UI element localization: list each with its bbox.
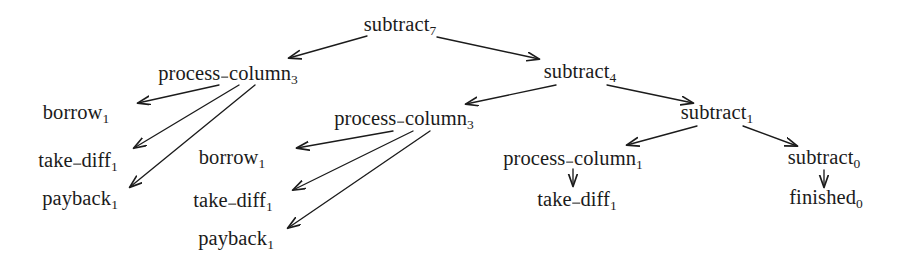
node-label-text: column <box>574 147 636 169</box>
tree-edge-n2-to-n6 <box>466 85 556 104</box>
underscore-glyph <box>220 60 229 81</box>
node-subscript: 1 <box>746 111 753 126</box>
node-label-text: column <box>229 62 291 84</box>
underscore-glyph <box>228 187 237 208</box>
tree-node-finished-0: finished0 <box>789 187 863 210</box>
node-subscript: 3 <box>291 72 298 87</box>
node-subscript: 4 <box>609 70 616 85</box>
tree-edge-n7-to-n11 <box>627 126 697 145</box>
tree-edge-n1-to-n3 <box>138 85 219 103</box>
tree-edge-n7-to-n13 <box>743 126 797 146</box>
tree-node-subtract-4: subtract4 <box>544 61 616 84</box>
node-label-text: process <box>503 147 565 169</box>
node-subscript: 7 <box>429 23 436 38</box>
node-label-text: take <box>537 188 572 210</box>
underscore-glyph <box>565 145 574 166</box>
node-label-text: borrow <box>199 146 259 168</box>
node-label-text: subtract <box>788 146 854 168</box>
node-label-text: diff <box>81 149 111 171</box>
node-subscript: 1 <box>111 159 118 174</box>
tree-node-payback-1: payback1 <box>42 188 118 211</box>
call-tree-figure: subtract7processcolumn3subtract4borrow1t… <box>0 0 907 272</box>
tree-node-process-column-1: processcolumn1 <box>503 145 643 172</box>
underscore-glyph <box>572 186 581 207</box>
node-label-text: subtract <box>544 60 610 82</box>
underscore-glyph <box>73 147 82 168</box>
tree-node-take-diff-1: takediff1 <box>537 186 617 213</box>
node-label-text: process <box>158 62 220 84</box>
node-subscript: 1 <box>111 197 118 212</box>
tree-edge-n1-to-n5 <box>130 85 255 187</box>
node-subscript: 0 <box>856 196 863 211</box>
tree-node-borrow-1: borrow1 <box>43 102 110 125</box>
tree-node-subtract-7: subtract7 <box>364 14 436 37</box>
node-label-text: process <box>334 107 396 129</box>
node-label-text: subtract <box>364 13 430 35</box>
tree-node-process-column-3: processcolumn3 <box>158 60 298 87</box>
tree-node-take-diff-1: takediff1 <box>193 187 273 214</box>
tree-node-subtract-0: subtract0 <box>788 147 860 170</box>
node-label-text: diff <box>236 189 266 211</box>
tree-edge-n6-to-n9 <box>293 131 413 190</box>
node-subscript: 1 <box>636 157 643 172</box>
node-subscript: 1 <box>259 156 266 171</box>
node-subscript: 1 <box>610 198 617 213</box>
tree-edge-n2-to-n7 <box>607 85 693 103</box>
tree-edge-n6-to-n8 <box>297 131 393 148</box>
node-label-text: payback <box>42 187 111 209</box>
node-label-text: borrow <box>43 101 103 123</box>
tree-edge-n0-to-n1 <box>289 36 367 58</box>
tree-node-borrow-1: borrow1 <box>199 147 266 170</box>
tree-edge-n6-to-n10 <box>288 131 430 228</box>
underscore-glyph <box>396 105 405 126</box>
tree-node-take-diff-1: takediff1 <box>38 147 118 174</box>
node-subscript: 1 <box>267 237 274 252</box>
node-label-text: payback <box>198 227 267 249</box>
tree-edge-layer <box>0 0 907 272</box>
node-label-text: column <box>405 107 467 129</box>
tree-edge-n0-to-n2 <box>437 37 539 59</box>
node-label-text: take <box>38 149 73 171</box>
node-subscript: 0 <box>853 156 860 171</box>
node-subscript: 1 <box>266 199 273 214</box>
node-label-text: diff <box>580 188 610 210</box>
node-subscript: 3 <box>467 117 474 132</box>
node-label-text: subtract <box>681 101 747 123</box>
tree-edge-n1-to-n4 <box>134 85 239 148</box>
node-subscript: 1 <box>103 111 110 126</box>
node-label-text: finished <box>789 186 856 208</box>
tree-node-subtract-1: subtract1 <box>681 102 753 125</box>
tree-node-process-column-3: processcolumn3 <box>334 105 474 132</box>
tree-node-payback-1: payback1 <box>198 228 274 251</box>
node-label-text: take <box>193 189 228 211</box>
